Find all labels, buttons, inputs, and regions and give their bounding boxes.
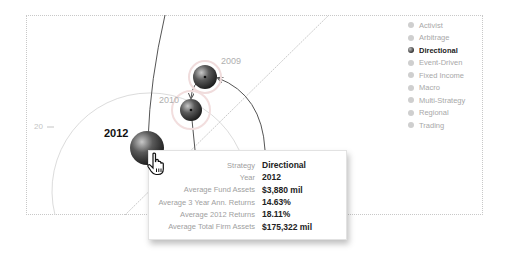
legend-dot-icon	[408, 97, 414, 103]
tooltip-key: Average Total Firm Assets	[149, 222, 262, 231]
axis-tick-label-20: 20	[34, 122, 43, 131]
legend-label: Multi-Strategy	[419, 96, 465, 105]
legend-label: Event-Driven	[419, 58, 462, 67]
legend-dot-icon	[408, 22, 414, 28]
tooltip-row-2012-returns: Average 2012 Returns18.11%	[149, 208, 346, 220]
tooltip-row-3yr-returns: Average 3 Year Ann. Returns14.63%	[149, 196, 346, 208]
legend-dot-icon	[408, 60, 414, 66]
legend-item-directional[interactable]: Directional	[408, 44, 465, 57]
tooltip-key: Average 2012 Returns	[149, 210, 262, 219]
tooltip-row-strategy: StrategyDirectional	[149, 159, 346, 171]
legend-item-fixed-income[interactable]: Fixed Income	[408, 69, 465, 82]
legend-dot-icon	[408, 47, 414, 53]
legend-label: Regional	[419, 108, 449, 117]
legend-dot-icon	[408, 72, 414, 78]
tooltip-value: $3,880 mil	[262, 185, 303, 195]
point-label-2009: 2009	[221, 56, 241, 66]
point-label-2012: 2012	[104, 127, 128, 139]
legend: Activist Arbitrage Directional Event-Dri…	[408, 19, 465, 132]
tooltip-key: Average 3 Year Ann. Returns	[149, 198, 262, 207]
legend-label: Activist	[419, 21, 443, 30]
legend-item-multi-strategy[interactable]: Multi-Strategy	[408, 94, 465, 107]
tooltip-row-year: Year2012	[149, 171, 346, 183]
legend-label: Arbitrage	[419, 33, 449, 42]
legend-item-trading[interactable]: Trading	[408, 119, 465, 132]
tooltip-row-fund-assets: Average Fund Assets$3,880 mil	[149, 184, 346, 196]
tooltip-value: Directional	[262, 160, 306, 170]
trajectory-arrow-to-2009	[218, 78, 265, 150]
legend-dot-icon	[408, 110, 414, 116]
legend-item-event-driven[interactable]: Event-Driven	[408, 57, 465, 70]
legend-dot-icon	[408, 35, 414, 41]
tooltip-key: Average Fund Assets	[149, 185, 262, 194]
point-label-2010: 2010	[159, 95, 179, 105]
tooltip-value: 14.63%	[262, 197, 291, 207]
trajectory-line-upper	[148, 15, 165, 140]
legend-item-arbitrage[interactable]: Arbitrage	[408, 32, 465, 45]
legend-item-regional[interactable]: Regional	[408, 107, 465, 120]
legend-item-macro[interactable]: Macro	[408, 82, 465, 95]
legend-label: Macro	[419, 83, 440, 92]
legend-label: Trading	[419, 121, 444, 130]
tooltip-row-firm-assets: Average Total Firm Assets$175,322 mil	[149, 220, 346, 232]
tooltip-value: 18.11%	[262, 209, 290, 219]
tooltip-value: 2012	[262, 172, 281, 182]
legend-dot-icon	[408, 122, 414, 128]
legend-item-activist[interactable]: Activist	[408, 19, 465, 32]
tooltip-value: $175,322 mil	[262, 222, 312, 232]
tooltip: StrategyDirectional Year2012 Average Fun…	[148, 150, 347, 240]
hand-pointer-cursor-icon	[146, 152, 168, 176]
legend-label: Fixed Income	[419, 71, 464, 80]
legend-dot-icon	[408, 85, 414, 91]
legend-label: Directional	[419, 46, 458, 55]
